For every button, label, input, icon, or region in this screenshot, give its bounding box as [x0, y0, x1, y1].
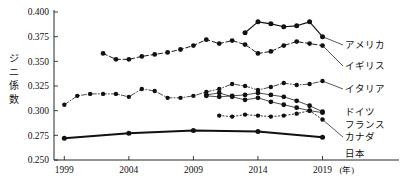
data-point-イギリス — [178, 47, 183, 52]
data-point-イタリア — [152, 89, 156, 93]
data-point-フランス — [281, 102, 286, 107]
data-point-イタリア — [140, 87, 144, 91]
data-point-フランス — [217, 91, 222, 96]
data-point-イタリア — [294, 83, 298, 87]
x-axis-tick-label: 2004 — [119, 165, 138, 175]
data-point-イギリス — [307, 41, 312, 46]
data-point-フランス — [204, 92, 209, 97]
data-point-フランス — [256, 95, 261, 100]
data-point-イギリス — [101, 51, 106, 56]
data-point-ドイツ — [307, 103, 312, 108]
leader-line-イタリア — [323, 81, 343, 89]
chart-canvas: 0.2500.2750.3000.3250.3500.3750.40019992… — [0, 0, 404, 190]
data-point-アメリカ — [255, 19, 260, 24]
data-point-イギリス — [114, 57, 119, 62]
data-point-イギリス — [152, 52, 157, 57]
data-point-イギリス — [243, 42, 248, 47]
gini-coefficient-line-chart: 0.2500.2750.3000.3250.3500.3750.40019992… — [0, 0, 404, 190]
series-label-ドイツ: ドイツ — [345, 106, 375, 117]
series-label-イギリス: イギリス — [345, 60, 385, 71]
y-axis-title-char: ニ — [9, 67, 19, 78]
series-line-ドイツ — [206, 93, 322, 112]
series-label-日本: 日本 — [345, 148, 365, 159]
leader-line-カナダ — [323, 120, 343, 137]
data-point-イギリス — [126, 57, 131, 62]
x-axis-tick-label: 2019 — [313, 165, 332, 175]
series-label-フランス: フランス — [345, 119, 385, 130]
data-point-イタリア — [217, 87, 221, 91]
data-point-アメリカ — [268, 21, 273, 26]
data-point-イタリア — [230, 82, 234, 86]
x-axis-tick-label: 1999 — [55, 165, 74, 175]
data-point-カナダ — [307, 108, 311, 112]
y-axis-tick-label: 0.375 — [28, 32, 50, 42]
y-axis-tick-label: 0.350 — [28, 57, 50, 67]
data-point-フランス — [268, 99, 273, 104]
series-label-イタリア: イタリア — [345, 83, 385, 94]
data-point-イギリス — [230, 38, 235, 43]
data-point-日本 — [62, 136, 67, 141]
data-point-イタリア — [307, 82, 311, 86]
series-label-アメリカ: アメリカ — [345, 39, 385, 50]
data-point-カナダ — [256, 113, 260, 117]
x-axis-unit-label: (年) — [340, 165, 355, 175]
data-point-イタリア — [88, 92, 92, 96]
leader-line-アメリカ — [323, 37, 343, 45]
data-point-イタリア — [165, 96, 169, 100]
data-point-アメリカ — [307, 19, 312, 24]
data-point-ドイツ — [256, 91, 261, 96]
data-point-イタリア — [75, 94, 79, 98]
y-axis-tick-label: 0.300 — [28, 106, 50, 116]
series-label-カナダ: カナダ — [345, 131, 375, 142]
y-axis-title-char: 係 — [9, 80, 19, 91]
y-axis-tick-label: 0.275 — [28, 131, 50, 141]
data-point-イギリス — [256, 51, 261, 56]
data-point-カナダ — [217, 113, 221, 117]
data-point-ドイツ — [294, 98, 299, 103]
data-point-カナダ — [243, 112, 247, 116]
data-point-イタリア — [62, 103, 66, 107]
data-point-イタリア — [191, 94, 195, 98]
data-point-ドイツ — [243, 92, 248, 97]
data-point-日本 — [126, 131, 131, 136]
data-point-イギリス — [165, 50, 170, 55]
data-point-日本 — [255, 129, 260, 134]
data-point-イギリス — [281, 43, 286, 48]
data-point-フランス — [294, 105, 299, 110]
data-point-イタリア — [101, 92, 105, 96]
x-axis-tick-label: 2014 — [248, 165, 267, 175]
data-point-フランス — [243, 97, 248, 102]
data-point-日本 — [320, 135, 325, 140]
data-point-ドイツ — [281, 94, 286, 99]
data-point-イタリア — [114, 92, 118, 96]
x-axis-tick-label: 2009 — [184, 165, 203, 175]
data-point-カナダ — [282, 113, 286, 117]
data-point-アメリカ — [281, 24, 286, 29]
data-point-イタリア — [269, 85, 273, 89]
data-point-イギリス — [268, 49, 273, 54]
data-point-フランス — [320, 110, 325, 115]
data-point-日本 — [191, 128, 196, 133]
data-point-カナダ — [269, 114, 273, 118]
data-point-イギリス — [139, 54, 144, 59]
data-point-イギリス — [204, 37, 209, 42]
data-point-イタリア — [178, 96, 182, 100]
y-axis-title-char: 数 — [9, 93, 19, 105]
data-point-アメリカ — [294, 23, 299, 28]
data-point-アメリカ — [243, 30, 248, 35]
data-point-ドイツ — [268, 92, 273, 97]
data-point-イタリア — [127, 95, 131, 99]
data-point-イギリス — [191, 43, 196, 48]
data-point-フランス — [230, 94, 235, 99]
y-axis-tick-label: 0.325 — [28, 81, 50, 91]
series-line-フランス — [206, 93, 322, 113]
data-point-イタリア — [243, 84, 247, 88]
y-axis-tick-label: 0.400 — [28, 7, 50, 17]
y-axis-title-char: ジ — [9, 53, 19, 64]
data-point-イタリア — [282, 81, 286, 85]
y-axis-tick-label: 0.250 — [28, 155, 50, 165]
data-point-イギリス — [217, 41, 222, 46]
data-point-カナダ — [230, 114, 234, 118]
data-point-カナダ — [294, 111, 298, 115]
leader-line-イギリス — [323, 46, 343, 66]
